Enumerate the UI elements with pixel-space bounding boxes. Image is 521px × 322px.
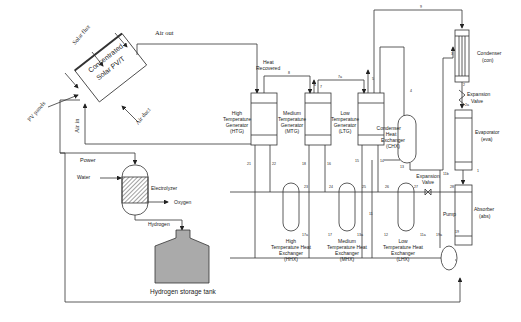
state-17: 17 [328,233,332,237]
state-8: 8 [288,71,290,75]
htg [251,93,277,145]
line-3 [410,47,453,170]
chx-label-4: (CHX) [386,143,400,149]
air-out-label: Air out [155,29,174,36]
expansion-valve-top-label-1: Expansion [467,91,491,97]
state-11b: 11b [443,172,449,176]
state-23: 23 [304,185,308,189]
state-9: 9 [420,5,422,9]
hhx [283,183,299,231]
line-8 [264,76,310,93]
state-26: 26 [385,185,389,189]
state-5: 5 [372,77,374,81]
hydrogen-storage-tank [155,230,209,283]
electrolyzer-label: Electrolyzer [151,185,177,191]
hhx-label-4: (HHX) [284,256,298,262]
state-13a: 13a [357,233,363,237]
state-11a: 11a [420,233,426,237]
state-18: 18 [302,162,306,166]
pv-panels-label: PV panels [26,100,47,123]
state-1: 1 [477,169,479,173]
state-16: 16 [327,162,331,166]
state-12: 12 [384,233,388,237]
state-11: 11 [369,212,373,216]
state-2a: 2a [465,103,469,107]
mhx-label-4: (MHX) [340,256,355,262]
heat-recovered-2: Recovered [256,65,280,71]
absorber-label-2: (abs) [479,213,491,219]
mtg-label-4: (MTG) [285,128,300,134]
evaporator-label-2: (eva) [481,136,493,142]
hydrogen-label: Hydrogen [148,221,170,227]
state-19a: 19a [436,233,442,237]
absorber-label-1: Absorber [474,206,495,212]
state-4: 4 [410,89,412,93]
state-28: 28 [450,185,454,189]
state-21: 21 [247,162,251,166]
power-label: Power [80,157,96,163]
state-27: 27 [414,185,418,189]
ltg-label-4: (LTG) [339,128,352,134]
expansion-valve-bottom-label-2: Valve [422,179,434,185]
pv-panels-pointer [48,95,78,107]
state-3: 3 [451,52,453,56]
air-out-line [137,44,257,93]
system-diagram: Concentrated Solar PV/T Solar flux PV pa… [0,0,521,322]
lhx-label-4: (LHX) [396,256,409,262]
evaporator-label-1: Evaporator [475,129,500,135]
lhx [398,183,414,231]
solar-flux-arrow [65,73,78,88]
expansion-valve-top-label-2: Valve [471,98,483,104]
mhx [339,183,355,231]
pump [441,246,457,270]
power-line [60,100,135,164]
water-label: Water [77,174,90,180]
oxygen-label: Oxygen [174,199,191,205]
mtg [305,93,331,145]
state-15: 15 [355,159,359,163]
state-6: 6 [314,83,316,87]
line-7a [318,80,364,93]
condenser [455,30,469,82]
state-7a: 7a [338,75,342,79]
state-13: 13 [400,165,404,169]
air-in-label: Air in [74,119,80,133]
state-19: 19 [455,230,459,234]
state-7: 7 [320,85,322,89]
condenser-label-1: Condenser [477,50,502,56]
condenser-label-2: (con) [482,57,494,63]
state-17a: 17a [302,233,308,237]
pump-label: Pump [443,211,456,217]
state-14: 14 [380,159,384,163]
electrolyzer [122,165,148,215]
state-2: 2 [463,83,465,87]
air-duct-label: Air duct [134,106,152,125]
htg-label-4: (HTG) [230,128,244,134]
evaporator [455,110,472,170]
tank-label: Hydrogen storage tank [150,288,217,296]
state-24: 24 [329,185,333,189]
solar-flux-label: Solar flux [71,24,91,46]
state-22: 22 [272,162,276,166]
state-25: 25 [362,185,366,189]
line-9 [374,10,462,93]
absorber [455,185,472,245]
